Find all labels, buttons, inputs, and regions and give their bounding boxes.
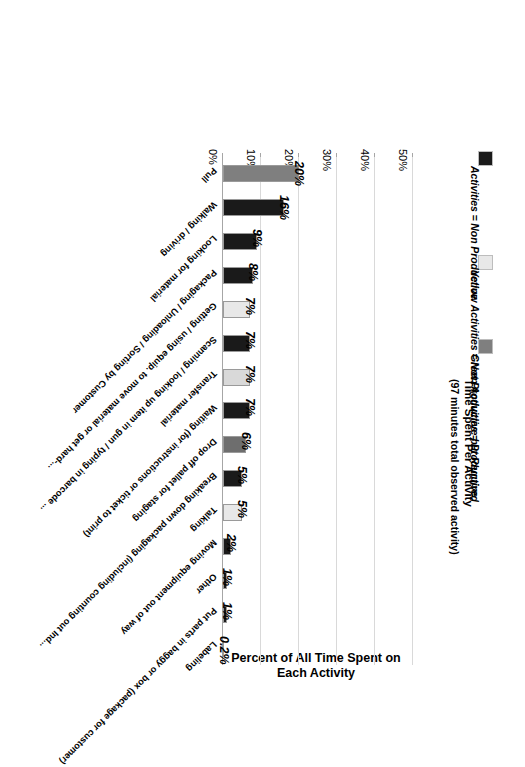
legend-label-red: Activities = Non Productive [469,166,481,300]
bar-value-label: 6% [239,432,253,450]
bar-value-label: 7% [243,331,257,349]
bar-value-label: 5% [235,466,249,484]
plot-area: 0%10%20%30%40%50%20%Pull16%Walking / dri… [223,157,413,665]
bar [223,199,284,216]
legend-swatch-red [478,151,493,166]
axis-tick [222,153,223,157]
bar-value-label: 7% [243,297,257,315]
axis-tick [260,153,261,157]
gridline [374,157,375,665]
category-label: Labeling [184,640,218,674]
category-label: Put parts in baggy or box (package for c… [58,606,219,767]
chart-legend: Green Activities = Productive Yellow Act… [453,32,493,362]
category-label: Pull [199,165,218,184]
chart-subtitle: (97 minutes total observed activity) [449,379,461,555]
bar-value-label: 7% [243,365,257,383]
bar-value-label: 2% [224,534,238,552]
axis-tick [336,153,337,157]
bar [223,165,299,182]
bar-value-label: 7% [243,399,257,417]
chart-title: Time Spent Per Activity [463,379,475,507]
axis-tick-label: 50% [397,149,409,171]
gridline [336,157,337,665]
category-label: Walking / driving [159,199,218,258]
bar-value-label: 9% [250,229,264,247]
axis-tick [412,153,413,157]
axis-tick-label: 0% [207,149,219,165]
gridline [412,157,413,665]
axis-tick [298,153,299,157]
bar-value-label: 16% [277,195,291,220]
category-label: Other [194,572,219,597]
category-label: Talking [189,504,219,534]
bar-value-label: 1% [220,602,234,620]
axis-tick-label: 30% [321,149,333,171]
gridline [298,157,299,665]
chart-title-block: Time Spent Per Activity (97 minutes tota… [443,369,489,599]
bar-value-label: 1% [220,568,234,586]
axis-tick [374,153,375,157]
category-label: Looking for material [148,233,218,303]
bar-value-label: 8% [246,263,260,281]
bar-value-label: 5% [235,500,249,518]
bar-value-label: 0.2% [218,636,232,665]
bar-value-label: 20% [292,161,306,186]
axis-tick-label: 40% [359,149,371,171]
